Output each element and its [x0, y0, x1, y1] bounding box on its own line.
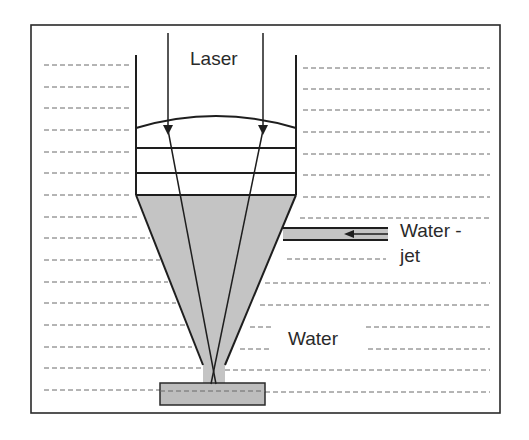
water-jet-label-line1: Water -	[400, 220, 462, 242]
water-jet-label-line2: jet	[400, 245, 420, 267]
laser-label: Laser	[190, 48, 238, 70]
workpiece	[160, 383, 265, 405]
water-label: Water	[288, 328, 338, 350]
